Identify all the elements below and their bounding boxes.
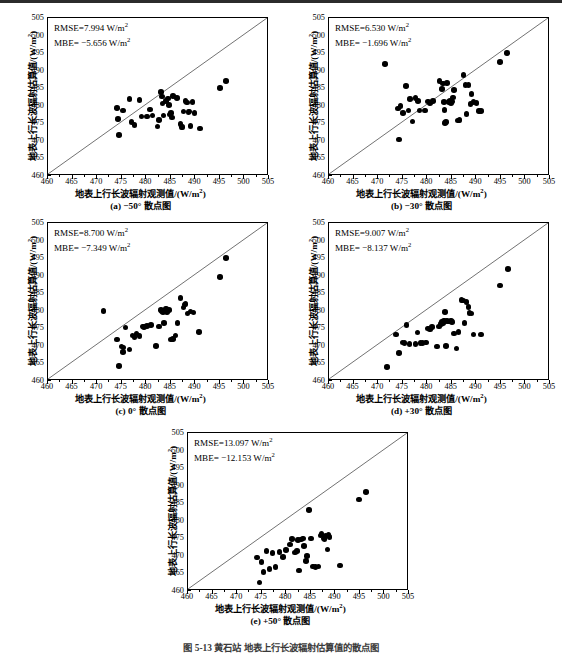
x-tick-mark (371, 590, 372, 592)
x-tick-mark (236, 590, 237, 594)
x-tick-mark (108, 380, 109, 382)
x-tick-mark (207, 175, 208, 177)
mbe-text: MBE= −1.696 W/m2 (335, 35, 411, 50)
x-tick-mark (500, 380, 501, 384)
top-rule (0, 0, 562, 3)
scatter-point (443, 343, 449, 349)
scatter-point (257, 580, 263, 586)
scatter-point (180, 124, 186, 130)
x-tick-mark (389, 175, 390, 177)
scatter-point (325, 547, 331, 553)
scatter-point (497, 59, 503, 65)
x-tick-mark (451, 175, 452, 179)
scatter-point (505, 266, 511, 272)
scatter-point (184, 100, 190, 106)
scatter-point (404, 322, 410, 328)
stats-annotation: RMSE=7.994 W/m2MBE= −5.656 W/m2 (54, 20, 130, 50)
scatter-point (422, 108, 428, 114)
x-tick-mark (377, 175, 378, 179)
scatter-point (283, 547, 289, 553)
scatter-point (169, 115, 175, 121)
x-tick-mark (524, 380, 525, 384)
scatter-point (188, 123, 194, 129)
scatter-point (303, 558, 309, 564)
scatter-point (192, 110, 198, 116)
scatter-point (150, 113, 156, 119)
scatter-point (478, 108, 484, 114)
scatter-point (174, 95, 180, 101)
x-tick-mark (121, 175, 122, 179)
scatter-point (449, 319, 455, 325)
scatter-point (456, 329, 462, 335)
scatter-point (396, 350, 402, 356)
rmse-text: RMSE=7.994 W/m2 (54, 20, 130, 35)
scatter-point (337, 563, 343, 569)
x-tick-mark (84, 175, 85, 177)
y-axis-label: 地表上行长波辐射估算值/(W/m2) (165, 432, 179, 590)
x-tick-mark (133, 175, 134, 177)
scatter-point (294, 548, 300, 554)
scatter-point (466, 82, 472, 88)
scatter-point (451, 87, 457, 93)
x-tick-mark (439, 175, 440, 177)
x-tick-mark (194, 175, 195, 179)
x-tick-mark (108, 175, 109, 177)
scatter-point (429, 324, 435, 330)
scatter-point (442, 107, 448, 113)
x-tick-mark (47, 380, 48, 384)
x-tick-mark (170, 175, 171, 179)
x-tick-mark (463, 175, 464, 177)
x-tick-mark (426, 380, 427, 384)
scatter-point (173, 333, 179, 339)
scatter-point (120, 349, 126, 355)
mbe-text: MBE= −8.137 W/m2 (335, 240, 411, 255)
x-tick-mark (96, 380, 97, 384)
x-tick-mark (475, 380, 476, 384)
x-tick-mark (322, 590, 323, 592)
x-tick-mark (512, 175, 513, 177)
scatter-point (139, 114, 145, 120)
scatter-point (296, 568, 302, 574)
x-tick-mark (207, 380, 208, 382)
subplot-caption-d: (d) +30° 散点图 (281, 403, 562, 417)
x-tick-mark (59, 175, 60, 177)
scatter-point (504, 50, 510, 56)
scatter-point (115, 116, 121, 122)
scatter-point (393, 332, 399, 338)
scatter-point (382, 61, 388, 67)
scatter-point (443, 119, 449, 125)
scatter-point (120, 108, 126, 114)
y-axis-label: 地表上行长波辐射估算值/(W/m2) (25, 222, 39, 380)
scatter-point (466, 304, 472, 310)
scatter-point (261, 569, 267, 575)
scatter-point (406, 108, 412, 114)
scatter-point (430, 98, 436, 104)
scatter-point (434, 344, 440, 350)
y-axis-ticks: 460465470475480485490495500505 (0, 17, 47, 175)
scatter-panel-a: 460465470475480485490495500505地表上行长波辐射估算… (0, 5, 281, 201)
x-tick-mark (347, 590, 348, 592)
scatter-point (175, 320, 181, 326)
rmse-text: RMSE=6.530 W/m2 (335, 20, 411, 35)
x-tick-mark (353, 380, 354, 384)
scatter-point (289, 536, 295, 542)
x-tick-mark (402, 380, 403, 384)
scatter-point (327, 534, 333, 540)
scatter-point (101, 308, 107, 314)
y-axis-label: 地表上行长波辐射估算值/(W/m2) (25, 17, 39, 175)
scatter-point (316, 564, 322, 570)
x-tick-mark (359, 590, 360, 594)
y-axis-label: 地表上行长波辐射估算值/(W/m2) (306, 222, 320, 380)
x-tick-mark (365, 380, 366, 382)
scatter-point (415, 98, 421, 104)
scatter-point (217, 274, 223, 280)
scatter-point (132, 122, 138, 128)
x-tick-mark (194, 380, 195, 384)
scatter-point (156, 117, 162, 123)
x-tick-mark (426, 175, 427, 179)
scatter-point (464, 111, 470, 117)
scatter-point (471, 332, 477, 338)
x-tick-mark (47, 175, 48, 179)
y-axis-ticks: 460465470475480485490495500505 (0, 222, 47, 380)
x-tick-mark (268, 380, 269, 384)
